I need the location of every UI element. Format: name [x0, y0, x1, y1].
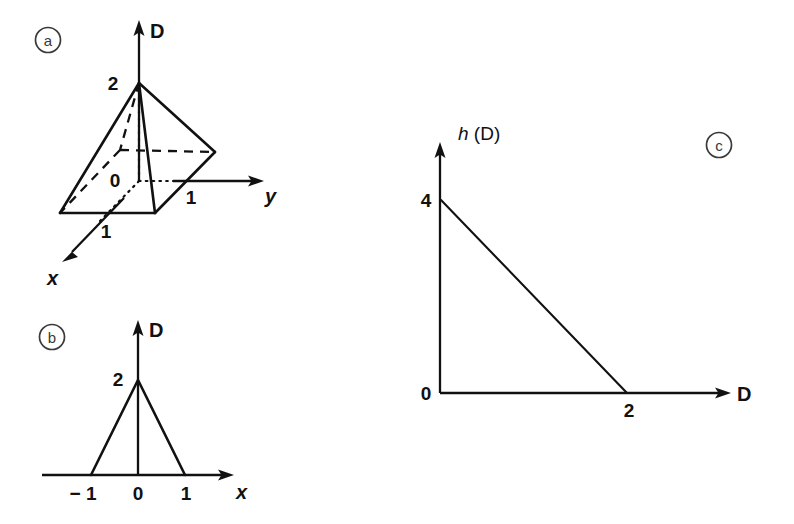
panel-c-axis-D-label: D: [737, 383, 751, 405]
panel-a-edge-apex-right: [139, 83, 215, 152]
panel-b-badge-label: b: [48, 329, 56, 346]
panel-c-tick-2: 2: [624, 400, 635, 421]
panel-b: b D x 2 − 1 0 1: [40, 319, 249, 504]
panel-b-axis-x-label: x: [235, 481, 248, 503]
panel-a-axis-x-label: x: [46, 267, 59, 289]
panel-c-axis-h: h (D): [435, 123, 501, 393]
panel-a-axis-x-line: [72, 198, 124, 252]
panel-c-badge-label: c: [715, 137, 723, 154]
panel-a-edge-apex-left: [60, 83, 139, 213]
panel-b-tick-2: 2: [113, 369, 124, 390]
panel-a-edge-apex-back: [120, 83, 139, 150]
panel-b-badge: b: [40, 325, 65, 350]
panel-c-line-segment: [441, 200, 627, 393]
panel-a-tick-0: 0: [110, 170, 121, 191]
panel-a-edge-back-right: [120, 150, 215, 152]
panel-b-tick-0: 0: [133, 483, 144, 504]
panel-a-tick-y-1: 1: [186, 187, 197, 208]
panel-a-axis-y-label: y: [264, 185, 277, 207]
panel-a-tick-2: 2: [108, 73, 119, 94]
panel-c-axis-h-label: h (D): [458, 123, 500, 144]
panel-a-origin-guides: [100, 92, 190, 221]
panel-b-axis-D-label: D: [149, 319, 163, 341]
panel-a-axis-D-label: D: [150, 20, 164, 42]
panel-c-axis-D: D: [440, 383, 751, 405]
panel-c-badge: c: [707, 133, 732, 158]
panel-a-badge-label: a: [44, 32, 53, 49]
panel-a-badge: a: [36, 28, 61, 53]
panel-c-axis-h-label-italic: h: [458, 123, 469, 144]
panel-c: c h (D) D 4 0 2: [421, 123, 752, 421]
panel-c-tick-4: 4: [421, 190, 432, 211]
panel-c-tick-0: 0: [421, 383, 432, 404]
figure-root: a D y x: [0, 0, 794, 524]
panel-a-edge-apex-front: [139, 83, 155, 213]
panel-a-axis-x: x: [46, 198, 124, 289]
panel-b-tick-minus-1: − 1: [70, 483, 97, 504]
panel-a-tick-x-1: 1: [101, 221, 112, 242]
panel-a: a D y x: [36, 20, 278, 289]
panel-b-axis-D: D: [133, 319, 164, 475]
scientific-figure: a D y x: [0, 0, 794, 524]
panel-b-tick-1: 1: [181, 483, 192, 504]
panel-c-data-line: [441, 200, 627, 393]
panel-c-axis-h-label-rest: (D): [469, 123, 501, 144]
